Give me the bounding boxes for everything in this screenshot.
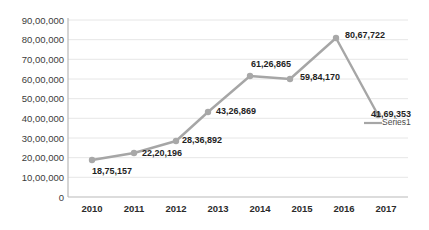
x-tick-label-2014: 2014	[236, 203, 284, 214]
x-tick-label-2013: 2013	[194, 203, 242, 214]
legend-entry-series1[interactable]: Series1	[382, 117, 411, 127]
y-tick-label: 90,00,000	[2, 15, 64, 26]
x-tick-label-2012: 2012	[152, 203, 200, 214]
data-label-2015: 59,84,170	[300, 72, 340, 82]
x-tick-label-2010: 2010	[68, 203, 116, 214]
line-chart: 90,00,000 80,00,000 70,00,000 60,00,000 …	[0, 0, 429, 230]
y-tick-label: 10,00,000	[2, 172, 64, 183]
x-tick-label-2011: 2011	[110, 203, 158, 214]
data-label-2010: 18,75,157	[92, 166, 132, 176]
y-tick-label: 60,00,000	[2, 74, 64, 85]
data-label-2011: 22,20,196	[142, 148, 182, 158]
y-tick-label: 20,00,000	[2, 152, 64, 163]
y-tick-label: 80,00,000	[2, 34, 64, 45]
y-tick-label: 0	[2, 192, 64, 203]
x-tick-label-2015: 2015	[278, 203, 326, 214]
data-label-2014: 61,26,865	[251, 59, 291, 69]
y-tick-label: 40,00,000	[2, 113, 64, 124]
y-tick-label: 30,00,000	[2, 133, 64, 144]
data-label-2016: 80,67,722	[345, 30, 385, 40]
y-tick-label: 70,00,000	[2, 54, 64, 65]
data-label-2012: 28,36,892	[182, 135, 222, 145]
data-label-2013: 43,26,869	[216, 106, 256, 116]
gridlines	[68, 20, 408, 177]
x-tick-label-2017: 2017	[362, 203, 410, 214]
y-tick-label: 50,00,000	[2, 93, 64, 104]
x-tick-label-2016: 2016	[320, 203, 368, 214]
